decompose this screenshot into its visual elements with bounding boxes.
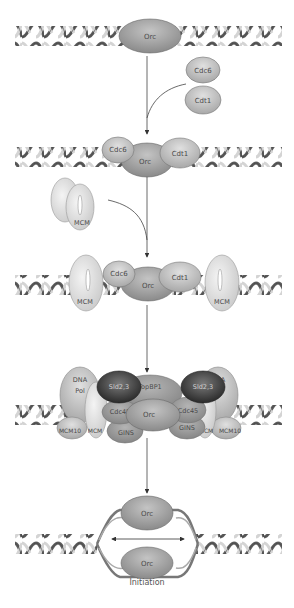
arrow-curve-step2 [108, 200, 147, 240]
step5: Orc Orc [15, 496, 282, 579]
gins-right-label: GINS [179, 424, 195, 432]
cdc6-label: Cdc6 [109, 146, 127, 154]
cdc45-right-label: Cdc45 [178, 407, 199, 415]
orc-top-label: Orc [141, 510, 153, 518]
cdc6-label: Cdc6 [110, 270, 128, 278]
orc-label: Orc [143, 411, 155, 419]
sld23-left-label: Sld2,3 [109, 383, 129, 391]
sld23-right-label: Sld2,3 [193, 383, 213, 391]
dna-helix-left [15, 534, 97, 554]
dna-pol-left-label-1: DNA [73, 376, 88, 384]
cdt1-label: Cdt1 [172, 274, 189, 282]
mcm-right-hole [218, 269, 222, 291]
replication-diagram: Orc Cdc6 Cdt1 Orc Cdc6 Cdt1 MCM MCM MCM [0, 0, 294, 608]
cdt1-label: Cdt1 [172, 150, 189, 158]
step3: MCM MCM Orc Cdc6 Cdt1 [15, 255, 282, 372]
cdc6-label: Cdc6 [194, 67, 212, 75]
dna-helix-left [15, 26, 125, 46]
dna-pol-left-label-2: Pol [75, 387, 85, 395]
mcm-right-label: MCM [214, 298, 230, 306]
orc-bottom-label: Orc [141, 560, 153, 568]
mcm10-right-label: MCM10 [219, 427, 241, 434]
step4: DNA Pol DNA Pol MCM10 MCM10 MCM MCM TopB… [15, 367, 282, 493]
mcm10-left-label: MCM10 [59, 427, 81, 434]
mcm-left-label: MCM [88, 427, 103, 434]
arrow-curve-step1 [147, 84, 186, 118]
mcm-ring-hole [78, 195, 82, 215]
orc-label: Orc [139, 158, 151, 166]
dna-helix-right [172, 26, 282, 46]
mcm-left-hole [86, 269, 90, 291]
cdt1-label: Cdt1 [195, 97, 212, 105]
orc-label: Orc [144, 33, 156, 41]
initiation-caption: Initiation [0, 578, 294, 587]
gins-left-label: GINS [118, 429, 134, 437]
mcm-label: MCM [74, 219, 90, 227]
orc-label: Orc [142, 282, 154, 290]
step2: Orc Cdc6 Cdt1 MCM [15, 137, 282, 257]
dna-helix-right [196, 534, 282, 554]
step1: Orc Cdc6 Cdt1 [15, 19, 282, 134]
mcm-left-label: MCM [77, 298, 93, 306]
